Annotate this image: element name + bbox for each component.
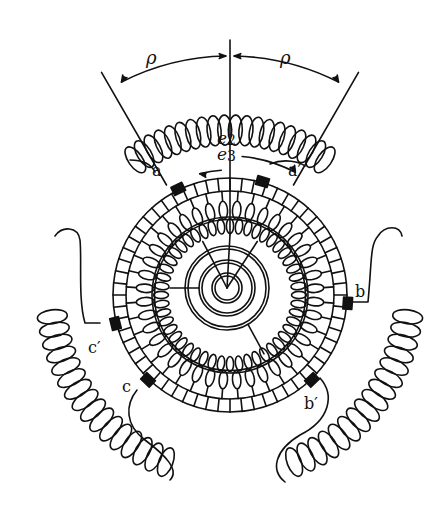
armature-lead [266, 199, 270, 208]
rho-arrow-left-inner [219, 54, 226, 59]
armature-lead [266, 382, 270, 391]
commutator-segment-divider [114, 283, 127, 284]
armature-lead [252, 386, 254, 396]
commutator-segment-divider [307, 365, 317, 374]
armature-inner-loop [281, 254, 298, 268]
field-coil-left-turn [141, 440, 166, 473]
armature-lead [129, 317, 139, 319]
commutator-segment-divider [272, 188, 277, 200]
brush-a-prime [256, 176, 270, 188]
armature-inner-loop [271, 336, 287, 352]
armature-lead [141, 344, 150, 349]
commutator-segment-divider [325, 337, 337, 342]
armature-lead [190, 199, 194, 208]
armature-lead [321, 317, 331, 319]
armature-lead [279, 206, 284, 215]
armature-lead [291, 366, 297, 374]
commutator-segment-divider [123, 247, 135, 252]
armature-inner-loop [181, 232, 196, 248]
commutator-segment-divider [300, 208, 309, 218]
e3-arrowhead [200, 172, 207, 177]
commutator-segment-divider [241, 398, 242, 411]
commutator-segment-divider [116, 271, 129, 274]
armature-lead [317, 331, 326, 335]
armature-lead [129, 271, 139, 273]
commutator-segment-divider [161, 379, 169, 390]
commutator-segment-divider [161, 200, 169, 211]
field-coil-left-turn [41, 331, 74, 352]
commutator-segment-divider [291, 200, 299, 211]
armature-inner-loop [162, 323, 179, 337]
armature-lead [317, 255, 326, 259]
commutator-segment-divider [206, 181, 209, 194]
wire-c [129, 390, 173, 480]
armature-inner-loop [154, 291, 169, 298]
commutator-segment-divider [114, 306, 127, 307]
armature-inner-loop [173, 238, 189, 254]
armature-lead [301, 356, 309, 362]
field-coil-top-turn [266, 120, 288, 153]
commutator-segment-divider [143, 365, 153, 374]
commutator-segment-divider [182, 390, 187, 402]
field-coil-left-turn [129, 435, 156, 468]
armature-lead [134, 255, 143, 259]
armature-inner-loop [234, 356, 243, 372]
field-coil-top-turn [275, 124, 299, 157]
armature-inner-loop [216, 219, 225, 235]
brush-c-prime [110, 317, 122, 331]
commutator-segment-divider [218, 398, 219, 411]
armature-lead [134, 331, 143, 335]
armature-inner-loop [258, 227, 272, 244]
commutator-segment-divider [332, 271, 345, 274]
armature-lead [237, 389, 238, 399]
armature-lead [237, 191, 238, 201]
armature-inner-loop [226, 357, 233, 372]
spoke-lower-right [248, 324, 264, 354]
armature-inner-loop [162, 254, 179, 268]
armature-inner-loop [265, 232, 280, 248]
commutator-segment-divider [129, 237, 140, 244]
label-brush-a: a [152, 161, 162, 180]
armature-lead [141, 241, 150, 246]
armature-lead [310, 241, 319, 246]
armature-lead [162, 366, 168, 374]
commutator-segment-divider [172, 385, 179, 396]
armature-lead [252, 194, 254, 204]
commutator-segment-divider [314, 356, 325, 364]
armature-inner-loop [189, 227, 203, 244]
armature-lead [206, 194, 208, 204]
label-brush-b-prime: b′ [304, 394, 318, 413]
commutator-segment-divider [291, 379, 299, 390]
label-brush-c: c [122, 377, 131, 396]
armature-inner-loop [265, 342, 280, 358]
armature-lead [222, 191, 223, 201]
commutator-segment-divider [325, 247, 337, 252]
armature-inner-loop [291, 281, 307, 290]
field-coil-left-turn [55, 365, 88, 391]
commutator-segment-divider [194, 394, 198, 406]
spoke-center [227, 235, 230, 288]
commutator-segment-divider [135, 356, 146, 364]
field-coil-top-turn [302, 138, 330, 171]
brush-c [141, 372, 156, 387]
field-coil-top-turn [194, 116, 213, 148]
commutator-segment-divider [272, 390, 277, 402]
commutator-segment-divider [282, 194, 289, 205]
armature-inner-loop [167, 330, 183, 345]
armature-inner-loop [281, 323, 298, 337]
commutator-segment-divider [194, 184, 198, 196]
commutator-segment-divider [333, 283, 346, 284]
commutator-segment-divider [329, 259, 341, 263]
armature-inner-loop [189, 346, 203, 363]
field-coil-top-turn [172, 120, 194, 153]
armature-inner-loop [292, 291, 307, 298]
armature-lead [321, 271, 331, 273]
armature-lead [126, 302, 136, 303]
field-coil-right-turn [386, 331, 419, 352]
armature-lead [291, 216, 297, 224]
commutator-segment-divider [218, 179, 219, 192]
wire-c-prime [55, 229, 100, 323]
field-coil-right-turn [382, 343, 415, 366]
label-brush-c-prime: c′ [88, 338, 101, 357]
armature-inner-loop [216, 356, 225, 372]
